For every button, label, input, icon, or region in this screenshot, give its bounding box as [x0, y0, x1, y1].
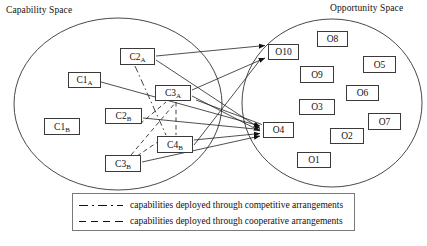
legend-label: capabilities deployed through cooperativ…: [130, 216, 343, 226]
node-label: O4: [273, 125, 285, 135]
node-label: C4B: [167, 140, 183, 150]
node-label-subscript: A: [141, 56, 146, 64]
node-label: C2B: [116, 111, 132, 121]
opportunity-node-o3[interactable]: O3: [299, 99, 335, 115]
node-label: O8: [327, 34, 339, 44]
opportunity-node-o4[interactable]: O4: [263, 122, 294, 138]
capability-node-c2b[interactable]: C2B: [105, 108, 142, 124]
opportunity-node-o1[interactable]: O1: [297, 152, 331, 168]
diagram-root: Capability Space Opportunity Space C1AC1…: [0, 0, 427, 246]
opportunity-node-o10[interactable]: O10: [268, 44, 299, 60]
node-label: C1A: [76, 75, 92, 85]
capability-node-c1b[interactable]: C1B: [44, 118, 80, 135]
node-label-subscript: A: [176, 92, 181, 100]
opportunity-node-o2[interactable]: O2: [330, 128, 364, 144]
capability-node-c4b[interactable]: C4B: [157, 136, 193, 153]
link-c3a-o10: [192, 58, 265, 90]
capability-node-c1a[interactable]: C1A: [68, 72, 101, 88]
node-label-subscript: B: [126, 163, 131, 171]
link-c4b-o4: [194, 134, 260, 141]
opportunity-node-o9[interactable]: O9: [300, 66, 334, 83]
capability-node-c3a[interactable]: C3A: [155, 85, 191, 101]
link-c3a-o4: [192, 96, 260, 131]
node-label-subscript: A: [88, 79, 93, 87]
node-label: O6: [357, 88, 369, 98]
link-c2a-o10: [156, 46, 265, 57]
opportunity-node-o8[interactable]: O8: [317, 31, 348, 47]
legend-box: capabilities deployed through competitiv…: [72, 193, 355, 231]
node-label: O9: [311, 70, 323, 80]
dashed-line-icon: [79, 221, 123, 222]
node-label: C2A: [129, 52, 145, 62]
node-label: O7: [379, 117, 391, 127]
node-label: C3B: [115, 159, 131, 169]
node-label: O3: [311, 102, 323, 112]
opportunity-node-o6[interactable]: O6: [346, 85, 379, 101]
node-label: O10: [275, 47, 291, 57]
link-cross-o4: [196, 100, 262, 125]
node-label-subscript: B: [178, 144, 183, 152]
node-label: O1: [308, 155, 320, 165]
node-label: C3A: [165, 88, 181, 98]
opportunity-node-o5[interactable]: O5: [363, 56, 396, 73]
dash-dot-line-icon: [79, 205, 123, 206]
opportunity-space-title: Opportunity Space: [330, 3, 403, 13]
legend-row-dashed: capabilities deployed through cooperativ…: [79, 213, 348, 229]
node-label: O5: [374, 60, 386, 70]
opportunity-node-o7[interactable]: O7: [368, 113, 401, 130]
capability-node-c2a[interactable]: C2A: [120, 48, 155, 65]
node-label-subscript: B: [65, 126, 70, 134]
legend-label: capabilities deployed through competitiv…: [130, 200, 343, 210]
capability-space-title: Capability Space: [6, 5, 72, 15]
legend-row-dash-dot: capabilities deployed through competitiv…: [79, 197, 348, 213]
link-c2b-c3a-cooperative: [140, 102, 166, 124]
node-label: O2: [341, 131, 353, 141]
capability-node-c3b[interactable]: C3B: [105, 155, 141, 172]
node-label-subscript: B: [127, 115, 132, 123]
node-label: C1B: [54, 122, 70, 132]
